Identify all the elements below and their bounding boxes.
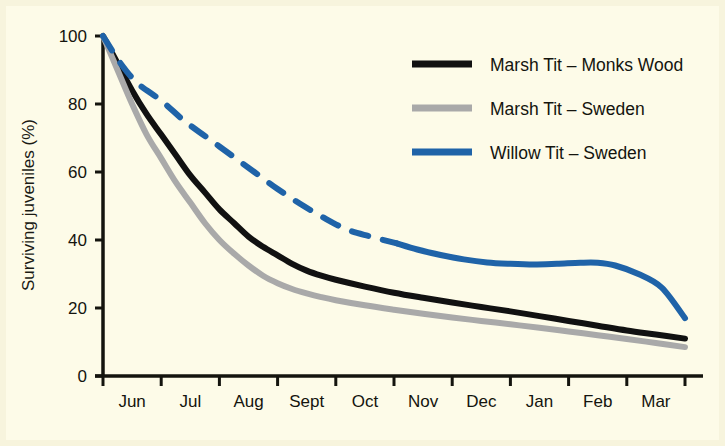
line-chart: 020406080100 JunJulAugSeptOctNovDecJanFe… [0, 0, 725, 446]
x-tick-label: Dec [466, 392, 497, 411]
x-tick-label: Jul [179, 392, 201, 411]
legend-label: Willow Tit – Sweden [490, 143, 647, 163]
x-tick-label: Sept [289, 392, 324, 411]
x-tick-label: Jan [526, 392, 553, 411]
y-tick-label: 20 [68, 299, 87, 318]
x-tick-label: Feb [583, 392, 612, 411]
legend-label: Marsh Tit – Sweden [490, 99, 645, 119]
legend-label: Marsh Tit – Monks Wood [490, 55, 683, 75]
x-tick-label: Mar [641, 392, 671, 411]
x-tick-label: Nov [408, 392, 439, 411]
y-tick-label: 100 [59, 27, 87, 46]
chart-figure: 020406080100 JunJulAugSeptOctNovDecJanFe… [0, 0, 725, 446]
x-tick-label: Jun [118, 392, 145, 411]
y-axis-title: Surviving juveniles (%) [19, 119, 38, 291]
x-tick-label: Aug [233, 392, 263, 411]
y-tick-label: 0 [78, 367, 87, 386]
y-tick-label: 40 [68, 231, 87, 250]
x-tick-label: Oct [352, 392, 379, 411]
y-tick-label: 80 [68, 95, 87, 114]
y-tick-label: 60 [68, 163, 87, 182]
